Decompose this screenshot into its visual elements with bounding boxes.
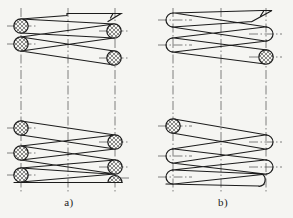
spring-b-top-outside-view bbox=[166, 11, 273, 65]
spring-diagram-canvas bbox=[0, 0, 293, 218]
coil-bands bbox=[166, 119, 267, 186]
wire-section-circle bbox=[107, 51, 121, 65]
spring-a-top-section-view bbox=[14, 14, 121, 66]
coil-bands bbox=[172, 11, 272, 65]
wire-end-curl bbox=[259, 174, 265, 187]
panel-b-label: b) bbox=[218, 196, 228, 208]
wire-section-circle bbox=[166, 119, 180, 133]
wire-section-circle bbox=[14, 121, 28, 135]
ground-end-half-section bbox=[108, 176, 122, 183]
wire-section-circle bbox=[14, 37, 28, 51]
wire-section-circle bbox=[14, 19, 28, 33]
wire-section-circle bbox=[14, 146, 28, 160]
wire-section-circle bbox=[107, 24, 121, 38]
wire-section-circle bbox=[14, 168, 28, 182]
spring-figure: a) b) bbox=[0, 0, 293, 218]
spring-b-bottom-outside-view bbox=[166, 119, 273, 187]
wire-section-circle bbox=[108, 160, 122, 174]
coil-bands bbox=[21, 14, 114, 66]
wire-section-circle bbox=[108, 135, 122, 149]
panel-a-label: a) bbox=[64, 196, 74, 208]
ground-end-taper bbox=[106, 14, 121, 22]
wire-section-circle bbox=[259, 50, 273, 64]
